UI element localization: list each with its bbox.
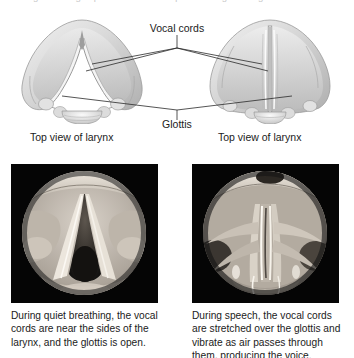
caption-photo-right-line-4: them, producing the voice. [192,349,352,358]
photo-larynx-speech [192,164,339,303]
caption-top-view-right: Top view of larynx [218,131,301,143]
caption-photo-right-line-2: are stretched over the glottis and [192,322,352,335]
caption-photo-right-line-3: vibrate as air passes through [192,336,352,349]
label-glottis: Glottis [0,118,354,130]
caption-photo-right: During speech, the vocal cords are stret… [192,309,352,358]
caption-top-view-left: Top view of larynx [30,131,113,143]
cut-off-text-line: during breathing to prevent food and liq… [12,0,342,3]
caption-photo-left-line-1: During quiet breathing, the vocal [11,309,171,322]
caption-photo-left-line-2: cords are near the sides of the [11,322,171,335]
photo-larynx-quiet-breathing [11,164,158,303]
larynx-diagram-area: Vocal cords Glottis [0,8,354,148]
caption-photo-left: During quiet breathing, the vocal cords … [11,309,171,349]
label-vocal-cords: Vocal cords [0,22,354,34]
caption-photo-left-line-3: larynx, and the glottis is open. [11,336,171,349]
caption-photo-right-line-1: During speech, the vocal cords [192,309,352,322]
figure-root: during breathing to prevent food and liq… [0,0,354,358]
